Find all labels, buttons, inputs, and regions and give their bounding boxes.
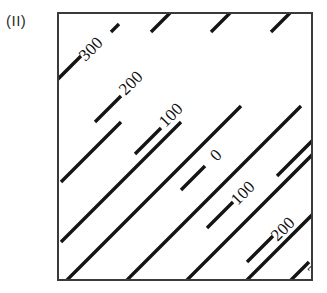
figure-designation-label: (II) [6,13,26,28]
contour-label: 0 [206,145,226,165]
contour-line-segment [61,122,121,182]
contour-line-segment [181,166,205,190]
contour-line-segment [277,136,311,176]
contour-line-segment [95,96,121,122]
contour-line-segment [211,14,239,32]
plot-frame: 3002001000100200300 [57,12,313,281]
contour-line-segment [281,262,309,279]
contour-line-segment [59,56,81,82]
contour-line-segment [135,128,161,154]
contour-line-segment [111,24,119,32]
contour-label: 200 [267,213,299,245]
contour-label: 300 [75,33,107,65]
contour-label: 200 [115,67,147,99]
contour-svg: 3002001000100200300 [59,14,311,279]
contour-label: 100 [155,99,187,131]
contour-line-segment [151,14,179,32]
contour-line-segment [207,202,233,228]
contour-line-segment [271,14,299,32]
contour-figure: (II) 3002001000100200300 [0,0,327,293]
